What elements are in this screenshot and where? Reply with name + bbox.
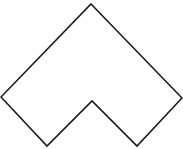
chevron-diagram — [0, 0, 183, 149]
chevron-shape — [1, 4, 182, 146]
diagram-canvas — [0, 0, 183, 149]
